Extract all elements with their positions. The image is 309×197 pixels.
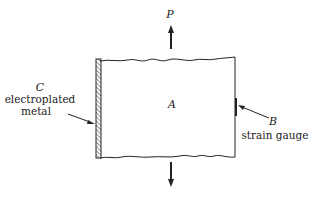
electroplated-metal-layer — [96, 59, 101, 158]
plate-bottom-edge — [100, 155, 235, 158]
diagram-canvas: P A B strain gauge C electroplated metal — [0, 0, 309, 197]
load-arrow-down — [168, 162, 174, 187]
coating-leader-arrow — [68, 114, 95, 124]
plate-label: A — [167, 98, 176, 111]
coating-text-line1: electroplated — [5, 93, 76, 105]
plate-top-edge — [100, 57, 235, 61]
load-label: P — [165, 8, 174, 21]
gauge-letter-label: B — [268, 115, 277, 128]
coating-text-line2: metal — [21, 105, 52, 117]
gauge-text-label: strain gauge — [241, 129, 308, 141]
gauge-leader-arrow — [238, 105, 269, 118]
load-arrow-up — [168, 25, 174, 49]
